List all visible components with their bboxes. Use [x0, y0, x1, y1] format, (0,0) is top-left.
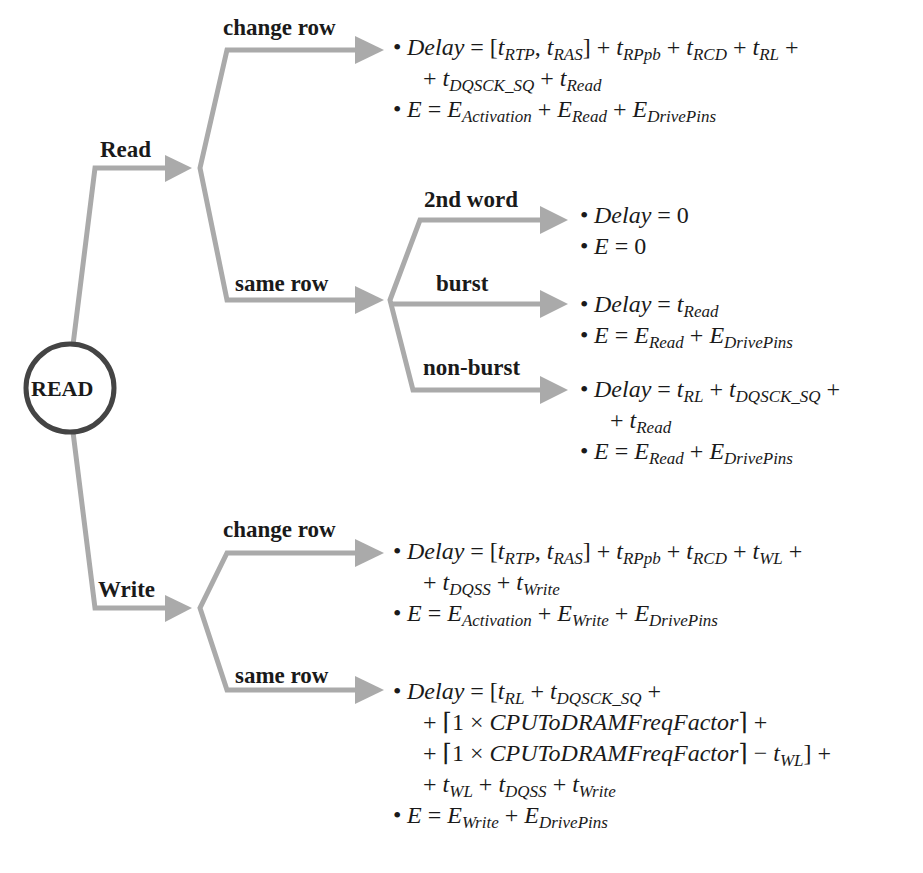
arrowhead-write	[165, 595, 192, 622]
root-node-label: READ	[31, 378, 93, 400]
label-read: Read	[100, 138, 151, 161]
arrowhead-2nd-word	[540, 206, 568, 234]
formula-burst: •Delay = tRead •E = ERead + EDrivePins	[580, 289, 793, 351]
arrowhead-burst	[540, 290, 568, 318]
formula-2nd-word: •Delay = 0 •E = 0	[580, 200, 689, 262]
arrowhead-write-same-row	[355, 676, 384, 704]
formula-write-change-row: •Delay = [tRTP, tRAS] + tRPpb + tRCD + t…	[393, 536, 802, 629]
formula-read-change-row: •Delay = [tRTP, tRAS] + tRPpb + tRCD + t…	[393, 32, 799, 125]
formula-write-same-row: •Delay = [tRL + tDQSCK_SQ + + ⌈1 × CPUTo…	[393, 676, 831, 831]
label-read-change-row: change row	[223, 16, 336, 39]
label-read-same-row: same row	[235, 272, 328, 295]
label-write-same-row: same row	[235, 664, 328, 687]
label-burst: burst	[436, 272, 488, 295]
label-2nd-word: 2nd word	[424, 188, 518, 211]
arrowhead-read-same-row	[355, 286, 384, 314]
label-write: Write	[98, 578, 155, 601]
arrowhead-read	[165, 155, 192, 182]
arrowhead-read-change-row	[355, 36, 384, 64]
label-non-burst: non-burst	[423, 356, 520, 379]
formula-non-burst: •Delay = tRL + tDQSCK_SQ + + tRead •E = …	[580, 374, 840, 467]
edge-read-fork	[200, 50, 360, 300]
arrowhead-write-change-row	[355, 539, 384, 567]
edge-root-read	[73, 168, 170, 345]
label-write-change-row: change row	[223, 518, 336, 541]
arrowhead-non-burst	[540, 376, 568, 404]
